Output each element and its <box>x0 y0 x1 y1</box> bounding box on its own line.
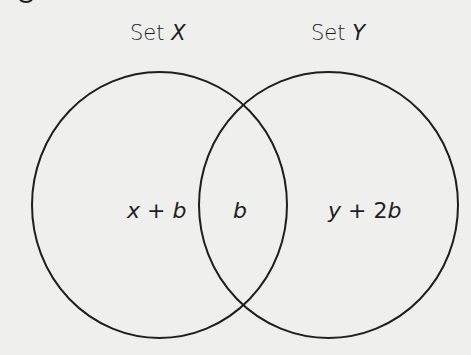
only-y-region-label: y + 2b <box>327 198 401 223</box>
set-y-title: Set Y <box>311 21 367 45</box>
venn-diagram: Set X Set Y x + b b y + 2b <box>0 0 471 355</box>
only-x-region-label: x + b <box>126 198 186 223</box>
intersection-region-label: b <box>233 198 247 223</box>
cropped-glyph-fragment <box>20 0 32 2</box>
set-x-title: Set X <box>130 21 186 45</box>
